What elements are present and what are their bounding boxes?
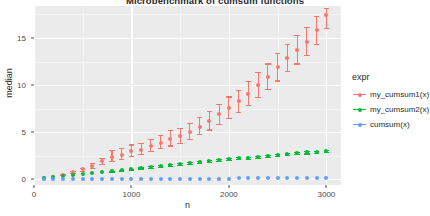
error-bar-cap (138, 154, 144, 155)
y-axis-title: median (4, 58, 14, 108)
gridline-major-vertical (34, 6, 35, 185)
error-bar-cap (197, 134, 203, 135)
data-point (198, 160, 202, 164)
y-axis-tick-mark (31, 179, 34, 180)
legend-key-icon (352, 117, 367, 132)
data-point (159, 141, 163, 145)
data-point (110, 155, 114, 159)
gridline-minor-horizontal (34, 62, 341, 63)
error-bar-cap (90, 168, 96, 169)
data-point (198, 177, 202, 181)
data-point (120, 168, 124, 172)
error-bar-cap (324, 8, 330, 9)
error-bar-cap (216, 124, 222, 125)
data-point (178, 134, 182, 138)
y-axis-tick-label: 15 (2, 34, 26, 43)
data-point (227, 177, 231, 181)
data-point (188, 177, 192, 181)
error-bar-cap (236, 112, 242, 113)
data-point (81, 172, 85, 176)
gridline-major-horizontal (34, 38, 341, 39)
legend-item[interactable]: my_cumsum1(x) (352, 87, 429, 102)
data-point (305, 40, 309, 44)
y-axis-tick-label: 5 (2, 128, 26, 137)
chart-plot-root: Microbenchmark of cumsum functions 05101… (0, 0, 430, 216)
error-bar-cap (187, 123, 193, 124)
error-bar-cap (158, 135, 164, 136)
data-point (129, 149, 133, 153)
x-axis-tick-label: 1000 (123, 190, 141, 199)
legend: expr my_cumsum1(x)my_cumsum2(x)cumsum(x) (352, 72, 429, 132)
error-bar-cap (226, 118, 232, 119)
error-bar-cap (265, 63, 271, 64)
error-bar-cap (236, 90, 242, 91)
legend-item-label: my_cumsum2(x) (370, 105, 429, 114)
y-axis-tick-mark (31, 85, 34, 86)
legend-item-label: cumsum(x) (370, 120, 410, 129)
error-bar-cap (275, 53, 281, 54)
data-point (178, 177, 182, 181)
error-bar-cap (207, 129, 213, 130)
data-point (324, 13, 328, 17)
error-bar-cap (197, 117, 203, 118)
y-axis-tick-label: 0 (2, 175, 26, 184)
data-point (295, 48, 299, 52)
legend-entries: my_cumsum1(x)my_cumsum2(x)cumsum(x) (352, 87, 429, 132)
legend-item[interactable]: cumsum(x) (352, 117, 429, 132)
error-bar-cap (226, 96, 232, 97)
data-point (246, 92, 250, 96)
legend-item[interactable]: my_cumsum2(x) (352, 102, 429, 117)
data-point (198, 125, 202, 129)
data-point (315, 176, 319, 180)
error-bar-cap (255, 97, 261, 98)
error-bar-cap (129, 156, 135, 157)
error-bar-cap (119, 159, 125, 160)
data-point (120, 177, 124, 181)
error-bar-cap (304, 27, 310, 28)
data-point (149, 144, 153, 148)
legend-key-icon (352, 102, 367, 117)
data-point (285, 56, 289, 60)
data-point (159, 164, 163, 168)
y-axis-tick-mark (31, 38, 34, 39)
error-bar-cap (168, 145, 174, 146)
data-point (237, 99, 241, 103)
data-point (276, 65, 280, 69)
error-bar-cap (99, 164, 105, 165)
error-bar-cap (138, 143, 144, 144)
error-bar-cap (148, 139, 154, 140)
legend-item-label: my_cumsum1(x) (370, 90, 429, 99)
error-bar-cap (109, 150, 115, 151)
data-point (256, 83, 260, 87)
data-point (188, 161, 192, 165)
error-bar-cap (285, 71, 291, 72)
data-point (149, 177, 153, 181)
x-axis-tick-label: 0 (32, 190, 36, 199)
data-point (159, 177, 163, 181)
gridline-minor-horizontal (34, 14, 341, 15)
x-axis-tick-mark (131, 185, 132, 188)
data-point (100, 159, 104, 163)
error-bar-cap (314, 16, 320, 17)
data-point (315, 150, 319, 154)
data-point (217, 177, 221, 181)
gridline-major-horizontal (34, 85, 341, 86)
error-bar-cap (177, 143, 183, 144)
legend-title: expr (352, 72, 429, 82)
error-bar-cap (129, 144, 135, 145)
data-point (188, 130, 192, 134)
error-bar-cap (158, 148, 164, 149)
error-bar-cap (109, 161, 115, 162)
error-bar-cap (314, 44, 320, 45)
x-axis-tick-label: 2000 (220, 190, 238, 199)
data-point (71, 177, 75, 181)
x-axis-tick-mark (228, 185, 229, 188)
data-point (51, 177, 55, 181)
gridline-major-vertical (131, 6, 132, 185)
data-point (266, 75, 270, 79)
data-point (149, 165, 153, 169)
error-bar-cap (246, 105, 252, 106)
error-bar-cap (285, 44, 291, 45)
error-bar-cap (265, 89, 271, 90)
data-point (81, 177, 85, 181)
